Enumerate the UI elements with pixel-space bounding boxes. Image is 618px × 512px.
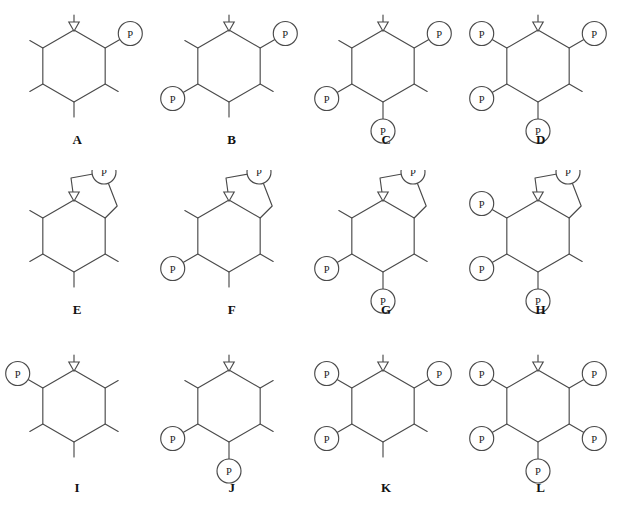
p-substituent-label: P xyxy=(436,369,442,380)
p-substituent-label: P xyxy=(169,434,175,445)
methyl-stub-bottom-right xyxy=(260,254,273,262)
structure-label-C: C xyxy=(309,132,464,148)
ring-hexagon xyxy=(43,30,105,102)
ring-atom-triangle-icon xyxy=(69,192,79,201)
p-bond-top-right xyxy=(569,380,584,389)
structure-label-L: L xyxy=(464,480,618,496)
structure-label-F: F xyxy=(155,302,310,318)
p-bond-bottom-left xyxy=(183,254,198,263)
p-substituent-label: P xyxy=(226,466,232,477)
structure-cell-F[interactable]: PP F xyxy=(155,170,310,340)
p-bond-top-right xyxy=(569,40,584,49)
p-substituent-label: P xyxy=(127,29,133,40)
p-substituent-label: P xyxy=(256,170,262,178)
structure-cell-A[interactable]: P A xyxy=(0,0,155,170)
p-bond-bottom-left xyxy=(492,254,507,263)
p-substituent-label: P xyxy=(535,466,541,477)
ring-atom-triangle-icon xyxy=(223,192,233,201)
p-substituent-label: P xyxy=(591,369,597,380)
p-bond-top-left xyxy=(492,40,507,49)
structure-drawing-A: P xyxy=(0,0,155,148)
ring-atom-triangle-icon xyxy=(532,362,542,371)
structure-label-H: H xyxy=(464,302,618,318)
structure-row-2: P E PP F PPP G PPPP H xyxy=(0,170,618,340)
structure-cell-B[interactable]: PP B xyxy=(155,0,310,170)
structure-cell-G[interactable]: PPP G xyxy=(309,170,464,340)
ring-hexagon xyxy=(197,370,259,442)
methyl-stub-top-left xyxy=(339,211,352,219)
ring-atom-triangle-icon xyxy=(378,22,388,31)
structure-row-1: P A PP B PPP C PPPP D xyxy=(0,0,618,170)
p-bond-bottom-left xyxy=(337,254,352,263)
methyl-stub-top-left xyxy=(184,381,197,389)
structure-cell-D[interactable]: PPPP D xyxy=(464,0,618,170)
methyl-stub-bottom-right xyxy=(414,424,427,432)
ring-atom-triangle-icon xyxy=(532,22,542,31)
p-bond-top-right xyxy=(414,380,429,389)
p-substituent-label: P xyxy=(478,434,484,445)
p-substituent-label: P xyxy=(478,29,484,40)
p-substituent-label: P xyxy=(282,29,288,40)
structure-label-B: B xyxy=(155,132,310,148)
structure-label-E: E xyxy=(0,302,155,318)
p-substituent-label: P xyxy=(478,369,484,380)
p-bond-bottom-left xyxy=(337,424,352,433)
ring-hexagon xyxy=(43,370,105,442)
ring-atom-triangle-icon xyxy=(378,362,388,371)
p-substituent-label: P xyxy=(478,94,484,105)
p-substituent-label: P xyxy=(15,369,21,380)
structure-drawing-L: PPPPP xyxy=(464,340,618,488)
methyl-stub-bottom-right xyxy=(105,254,118,262)
p-substituent-label: P xyxy=(591,29,597,40)
structure-row-3: P I PP J PPP K PPPPP L xyxy=(0,340,618,510)
p-substituent-label: P xyxy=(169,264,175,275)
methyl-stub-bottom-left xyxy=(30,84,43,92)
p-bond-bottom-left xyxy=(183,424,198,433)
ring-hexagon xyxy=(43,200,105,272)
ring-hexagon xyxy=(197,200,259,272)
methyl-stub-bottom-right xyxy=(414,84,427,92)
p-bond-bottom-left xyxy=(337,84,352,93)
structure-cell-E[interactable]: P E xyxy=(0,170,155,340)
ring-atom-triangle-icon xyxy=(69,362,79,371)
structure-cell-J[interactable]: PP J xyxy=(155,340,310,510)
methyl-stub-bottom-right xyxy=(414,254,427,262)
structure-cell-L[interactable]: PPPPP L xyxy=(464,340,618,510)
structure-label-I: I xyxy=(0,480,155,496)
ring-atom-triangle-icon xyxy=(69,22,79,31)
ring-atom-triangle-icon xyxy=(223,362,233,371)
p-substituent-label: P xyxy=(169,94,175,105)
structure-cell-I[interactable]: P I xyxy=(0,340,155,510)
p-substituent-label: P xyxy=(324,369,330,380)
methyl-stub-top-right xyxy=(105,381,118,389)
structure-drawing-B: PP xyxy=(155,0,310,148)
ring-hexagon xyxy=(506,30,568,102)
p-bond-top-left xyxy=(28,380,43,389)
p-bond-top-left xyxy=(492,380,507,389)
structure-label-A: A xyxy=(0,132,155,148)
p-bond-bottom-right xyxy=(569,424,584,433)
structure-drawing-F: PP xyxy=(155,170,310,318)
p-substituent-label: P xyxy=(478,264,484,275)
structure-cell-K[interactable]: PPP K xyxy=(309,340,464,510)
p-substituent-label: P xyxy=(101,170,107,178)
p-bond-top-left xyxy=(492,210,507,219)
structure-cell-H[interactable]: PPPP H xyxy=(464,170,618,340)
p-substituent-label: P xyxy=(591,434,597,445)
p-substituent-label: P xyxy=(324,434,330,445)
structure-drawing-K: PPP xyxy=(309,340,464,488)
structure-drawing-H: PPPP xyxy=(464,170,618,318)
structure-label-J: J xyxy=(155,480,310,496)
structure-drawing-J: PP xyxy=(155,340,310,488)
p-bond-top-right xyxy=(414,40,429,49)
p-substituent-label: P xyxy=(436,29,442,40)
p-substituent-label: P xyxy=(324,264,330,275)
ring-atom-triangle-icon xyxy=(532,192,542,201)
structure-cell-C[interactable]: PPP C xyxy=(309,0,464,170)
methyl-stub-bottom-right xyxy=(105,424,118,432)
ring-hexagon xyxy=(352,370,414,442)
p-bond-top-left xyxy=(337,380,352,389)
methyl-stub-bottom-right xyxy=(105,84,118,92)
p-substituent-label: P xyxy=(478,199,484,210)
methyl-stub-top-left xyxy=(30,211,43,219)
